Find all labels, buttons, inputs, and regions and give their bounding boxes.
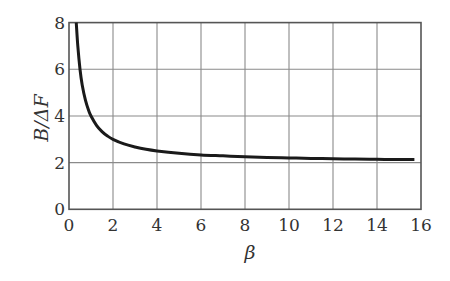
- y-tick-label: 2: [54, 153, 65, 173]
- y-tick-label: 0: [54, 199, 65, 219]
- y-tick-label: 6: [54, 59, 65, 79]
- x-tick-label: 0: [64, 215, 75, 235]
- y-tick-label: 4: [54, 106, 65, 126]
- y-axis-label: B/ΔF: [30, 94, 52, 143]
- x-tick-label: 8: [240, 215, 251, 235]
- x-tick-label: 4: [152, 215, 163, 235]
- y-tick-label: 8: [54, 13, 65, 33]
- y-tick-labels: 02468: [54, 13, 65, 220]
- chart: 0246810121416 02468 β B/ΔF: [0, 0, 450, 281]
- grid-lines: [69, 23, 421, 210]
- x-tick-label: 6: [196, 215, 207, 235]
- x-tick-label: 2: [108, 215, 119, 235]
- x-tick-label: 10: [278, 215, 300, 235]
- x-axis-label: β: [244, 241, 256, 263]
- x-tick-label: 12: [322, 215, 344, 235]
- x-tick-label: 16: [410, 215, 432, 235]
- x-tick-label: 14: [366, 215, 388, 235]
- x-tick-labels: 0246810121416: [64, 215, 432, 235]
